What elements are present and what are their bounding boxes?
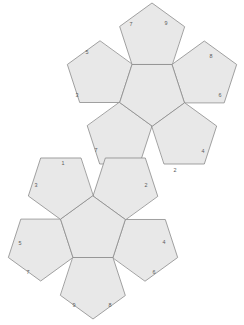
vertex-label: 2 [145,182,148,188]
vertex-label: 8 [210,53,213,59]
vertex-label: 9 [165,20,168,26]
vertex-label: 5 [86,49,89,55]
vertex-label: 3 [76,92,79,98]
vertex-label: 5 [19,240,22,246]
vertex-label: 6 [153,269,156,275]
vertex-label: 9 [73,302,76,308]
lower-petal-left [61,258,126,320]
net-faces-group [8,3,236,319]
vertex-label: 7 [95,147,98,153]
dodecahedron-net-figure: 795386427213574698 [0,0,244,325]
vertex-label: 4 [163,239,166,245]
vertex-label: 3 [35,182,38,188]
vertex-label: 7 [130,21,133,27]
vertex-label: 2 [174,167,177,173]
vertex-label: 4 [202,148,205,154]
vertex-label: 8 [109,302,112,308]
upper-petal-upper-right [120,3,185,64]
vertex-label: 7 [27,269,30,275]
vertex-label: 1 [62,160,65,166]
vertex-label: 6 [219,92,222,98]
